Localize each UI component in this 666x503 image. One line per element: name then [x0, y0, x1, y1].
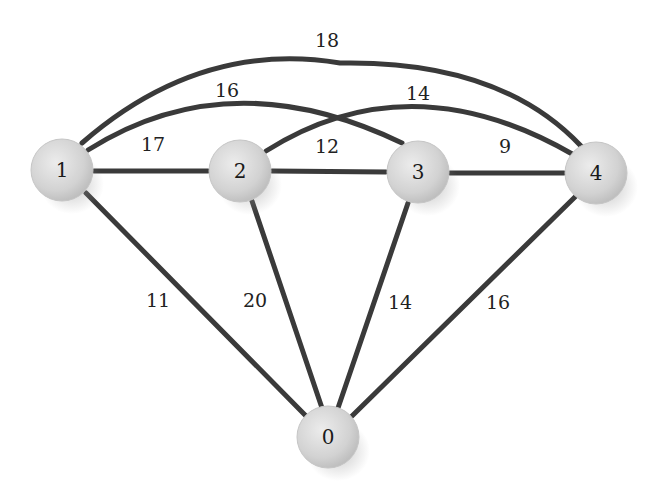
weight-label-1-4: 18	[315, 29, 339, 51]
node-label: 0	[322, 425, 335, 449]
weight-label-2-0: 20	[243, 289, 267, 311]
node-3: 3	[387, 141, 460, 216]
node-label: 1	[56, 158, 69, 182]
node-2: 2	[209, 140, 282, 215]
node-0: 0	[297, 406, 370, 481]
node-4: 4	[565, 142, 638, 217]
node-label: 3	[412, 160, 425, 184]
weight-label-2-3: 12	[315, 135, 339, 157]
weight-label-3-4: 9	[499, 135, 511, 157]
edge-4-0	[352, 196, 576, 416]
node-1: 1	[31, 139, 104, 214]
weight-label-1-3: 16	[215, 79, 239, 101]
node-label: 2	[234, 159, 247, 183]
node-label: 4	[590, 161, 603, 185]
edge-1-0	[86, 193, 306, 416]
weight-label-2-4: 14	[406, 82, 430, 104]
weight-label-4-0: 16	[486, 291, 510, 313]
weight-label-1-0: 11	[146, 289, 170, 311]
weight-label-1-2: 17	[141, 133, 165, 155]
edge-2-3	[272, 171, 386, 172]
weight-label-3-0: 14	[388, 291, 412, 313]
graph-diagram: 17 12 9 16 14 18 11 20 14 16 1 2 3 4 0	[0, 0, 666, 503]
